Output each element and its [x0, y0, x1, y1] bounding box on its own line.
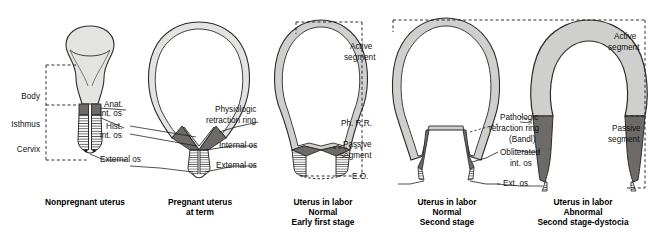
external-os-marker-right [92, 149, 95, 152]
label-passive-segment-p3-line1: Passive [343, 140, 372, 149]
label-pathologic-line1: Pathologic [500, 113, 538, 122]
leader-external-os-p2-left [130, 166, 193, 172]
label-external-os-p2: External os [216, 161, 257, 170]
caption-panel-2: Pregnant uterus at term [135, 197, 265, 217]
caption-3-line-3: Early first stage [258, 217, 388, 227]
label-obliterated-line2: int. os [510, 159, 532, 168]
label-internal-os: Internal os [219, 141, 257, 150]
label-passive-segment-p5-line1: Passive [612, 124, 641, 133]
caption-5-line-3: Second stage-dystocia [508, 217, 657, 227]
labor2-uterus-cavity [401, 26, 491, 156]
cervix-left [78, 115, 89, 151]
label-hist-int-os-line2: int. os [100, 131, 122, 140]
label-isthmus: Isthmus [0, 120, 40, 129]
label-active-segment-p3-line1: Active [350, 42, 372, 51]
label-external-os-p1: External os [100, 155, 141, 164]
label-active-segment-p5-line1: Active [614, 32, 636, 41]
label-active-segment-p3-line2: segment [344, 53, 375, 62]
label-anat-int-os-line2: int. os [100, 109, 122, 118]
panel-uterus-labor-second-stage [392, 18, 499, 180]
label-passive-segment-p3-line2: segment [340, 151, 371, 160]
caption-5-line-1: Uterus in labor [508, 197, 657, 207]
label-pathologic-line2: retraction ring [489, 124, 539, 133]
caption-3-line-2: Normal [258, 207, 388, 217]
label-physiologic-line2: retraction ring [206, 116, 256, 125]
label-hist-int-os-line1: Hist. [106, 122, 122, 131]
caption-3-line-1: Uterus in labor [258, 197, 388, 207]
dystocia-cervix-right [631, 182, 636, 191]
isthmus-band-left [79, 104, 89, 115]
caption-panel-3: Uterus in labor Normal Early first stage [258, 197, 388, 228]
uterus-diagram-canvas: Body Isthmus Cervix Anat. int. os Hist. … [0, 0, 657, 233]
leader-ext-os-p4 [470, 181, 500, 184]
label-pathologic-line3: (Bandl) [509, 135, 535, 144]
label-cervix: Cervix [0, 145, 40, 154]
label-obliterated-line1: Obliterated [500, 148, 540, 157]
caption-5-line-2: Abnormal [508, 207, 657, 217]
external-os-marker-left [84, 149, 87, 152]
caption-4-line-3: Second stage [382, 217, 512, 227]
label-ph-rr: Ph. R.R. [341, 119, 372, 128]
pregnant-external-os [193, 174, 205, 178]
leader-ext-os-p4-left [398, 181, 424, 184]
caption-panel-4: Uterus in labor Normal Second stage [382, 197, 512, 228]
label-passive-segment-p5-line2: segment [608, 135, 639, 144]
caption-panel-5: Uterus in labor Abnormal Second stage-dy… [508, 197, 657, 228]
label-body: Body [2, 92, 40, 101]
label-anat-int-os-line1: Anat. [104, 100, 123, 109]
dystocia-cervix-left [542, 182, 547, 191]
label-ext-os-p4: Ext. os [503, 179, 528, 188]
caption-2-line-2: at term [135, 207, 265, 217]
caption-4-line-1: Uterus in labor [382, 197, 512, 207]
caption-2-line-1: Pregnant uterus [135, 197, 265, 207]
label-active-segment-p5-line2: segment [608, 43, 639, 52]
label-physiologic-line1: Physiologic [215, 105, 256, 114]
caption-4-line-2: Normal [382, 207, 512, 217]
label-eo: E.O. [352, 172, 368, 181]
panel-pregnant-uterus-at-term [130, 22, 258, 178]
labor2-cervix-right [468, 167, 474, 180]
labor2-cervix-left [418, 167, 424, 180]
